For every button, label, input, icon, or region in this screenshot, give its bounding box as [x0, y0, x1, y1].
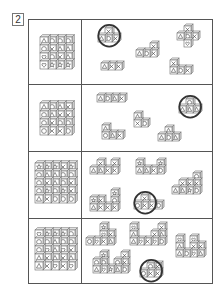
- piece-row-3-2[interactable]: [136, 158, 166, 174]
- cube-block-row-3: [35, 161, 77, 203]
- piece-row-3-4[interactable]: [90, 188, 120, 211]
- piece-row-2-2[interactable]: [179, 96, 202, 118]
- piece-row-4-1[interactable]: [86, 222, 116, 245]
- piece-row-1-4[interactable]: [101, 61, 124, 70]
- piece-row-2-4[interactable]: [102, 123, 125, 139]
- cube-block-row-4: [35, 228, 77, 270]
- piece-row-1-2[interactable]: [136, 41, 159, 57]
- piece-row-4-2[interactable]: [130, 222, 167, 245]
- piece-row-2-5[interactable]: [158, 125, 181, 141]
- piece-row-3-5[interactable]: [134, 192, 164, 214]
- piece-row-3-1[interactable]: [90, 158, 120, 174]
- piece-row-4-5[interactable]: [140, 260, 163, 282]
- cube-block-row-2: [40, 101, 74, 135]
- piece-row-2-1[interactable]: [97, 93, 127, 102]
- piece-row-4-4[interactable]: [93, 250, 130, 273]
- piece-row-1-5[interactable]: [170, 58, 193, 74]
- piece-row-1-3[interactable]: [177, 24, 200, 47]
- cube-block-row-1: [40, 35, 74, 69]
- piece-row-2-3[interactable]: [134, 111, 150, 127]
- piece-row-1-1[interactable]: [98, 25, 121, 47]
- puzzle-drawing: [0, 0, 224, 296]
- piece-row-3-3[interactable]: [172, 171, 202, 194]
- piece-row-4-3[interactable]: [176, 234, 206, 257]
